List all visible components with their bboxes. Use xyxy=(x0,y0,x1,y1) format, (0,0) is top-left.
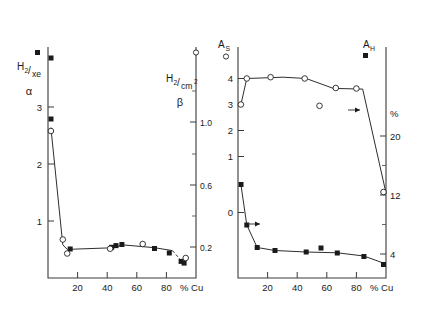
panel-right-y2-title: A H xyxy=(363,39,375,52)
panel-right-yaxis-title-main: A xyxy=(218,39,225,50)
panel-right-legend-open-circle xyxy=(223,54,228,59)
panel-right-ytick-1: 1 xyxy=(228,151,233,162)
panel-right-y2-title-main: A xyxy=(363,39,370,50)
panel-right-yaxis-ticks xyxy=(238,79,244,213)
panel-left-xaxis-ticks xyxy=(78,272,167,278)
panel-right-y2-title-sub: H xyxy=(370,45,375,52)
panel-left-y2tick-10: 1.0 xyxy=(200,118,212,128)
panel-right-xtick-80: 80 xyxy=(351,282,362,293)
panel-left-y2-ticks xyxy=(190,91,196,247)
panel-left-ytick-2: 2 xyxy=(37,159,42,170)
panel-right-percent-symbol: % xyxy=(390,108,399,119)
panel-left-y2-title-main: H xyxy=(166,73,173,84)
panel-left-yaxis-title-denom: xe xyxy=(32,69,41,79)
panel-left-y2tick-02: 0.2 xyxy=(200,243,212,253)
panel-left-yaxis-ticks xyxy=(48,107,54,221)
panel-left-yaxis-title: H 2 / xe xyxy=(17,61,41,79)
panel-right-ytick-3: 3 xyxy=(228,99,233,110)
panel-left-yaxis-title-slash: / xyxy=(28,65,31,76)
panel-left-series-alpha xyxy=(49,56,187,266)
panel-right-xaxis-label: % Cu xyxy=(370,282,393,293)
panel-right-ah-curve xyxy=(241,185,386,265)
panel-left-y2-title: H 2 / cm 2 xyxy=(166,73,198,91)
panel-left: 1 2 3 0.2 0.6 1.0 20 40 60 80 % Cu H xyxy=(17,47,212,293)
panel-right-series-ah xyxy=(239,182,387,267)
panel-left-y2-title-denom: cm xyxy=(181,81,192,91)
panel-left-y2-title-sup: 2 xyxy=(194,78,198,85)
panel-left-xtick-20: 20 xyxy=(72,282,83,293)
panel-right-xtick-40: 40 xyxy=(292,282,303,293)
panel-right-series-as xyxy=(238,74,386,194)
panel-left-alpha-symbol: α xyxy=(26,85,33,97)
panel-left-xtick-40: 40 xyxy=(102,282,113,293)
panel-left-xaxis-label: % Cu xyxy=(180,282,203,293)
panel-right-xtick-20: 20 xyxy=(262,282,273,293)
figure-root: 1 2 3 0.2 0.6 1.0 20 40 60 80 % Cu H xyxy=(0,0,426,319)
panel-right-arrow-upper xyxy=(348,108,360,113)
panel-left-fit-curve-solid xyxy=(51,128,172,251)
panel-left-ytick-1: 1 xyxy=(37,216,42,227)
panel-left-series-beta xyxy=(48,128,188,261)
panel-right-frame xyxy=(238,47,386,278)
panel-left-ytick-3: 3 xyxy=(37,102,42,113)
panel-right: 4 3 2 1 0 4 12 20 % 20 40 60 80 % Cu xyxy=(218,39,401,293)
figure-svg: 1 2 3 0.2 0.6 1.0 20 40 60 80 % Cu H xyxy=(0,0,426,319)
panel-left-beta-symbol: β xyxy=(177,96,183,108)
panel-left-xtick-80: 80 xyxy=(161,282,172,293)
panel-right-yaxis-title-sub: S xyxy=(226,45,231,52)
panel-left-legend-open-circle xyxy=(193,50,198,55)
panel-right-ytick-4: 4 xyxy=(228,73,233,84)
panel-right-xtick-60: 60 xyxy=(322,282,333,293)
panel-right-ytick-0: 0 xyxy=(228,207,233,218)
panel-right-y2tick-20: 20 xyxy=(390,131,401,142)
panel-right-arrow-lower xyxy=(248,222,260,227)
panel-left-legend-filled-square xyxy=(35,50,40,55)
panel-right-legend-filled-square xyxy=(363,53,368,58)
panel-left-yaxis-title-main: H xyxy=(17,61,24,72)
panel-left-xtick-60: 60 xyxy=(132,282,143,293)
panel-right-y2tick-4: 4 xyxy=(390,249,395,260)
panel-right-y2tick-12: 12 xyxy=(390,190,401,201)
panel-left-y2-title-slash: / xyxy=(177,77,180,88)
panel-left-y2tick-06: 0.6 xyxy=(200,181,212,191)
panel-right-ytick-2: 2 xyxy=(228,125,233,136)
panel-right-xaxis-ticks xyxy=(268,272,357,278)
panel-right-as-curve xyxy=(241,77,386,193)
panel-right-yaxis-title: A S xyxy=(218,39,231,52)
